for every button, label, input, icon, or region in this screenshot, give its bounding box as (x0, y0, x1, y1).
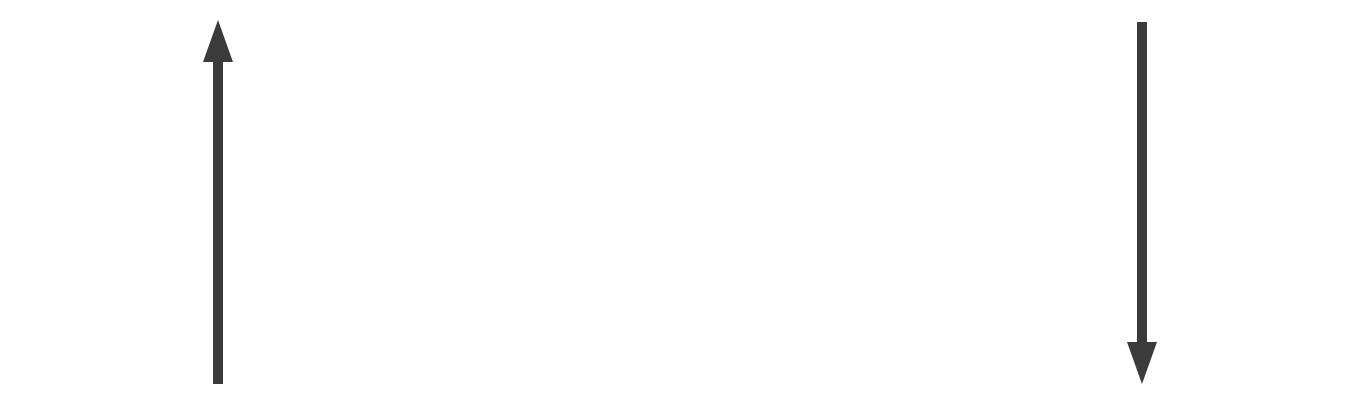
p-value-up-arrow-icon (198, 18, 238, 386)
chart-stage (0, 0, 1348, 420)
p-value-swatch (66, 62, 106, 100)
confidence-swatch (1212, 56, 1252, 94)
plot-area (312, 18, 1009, 384)
confidence-down-arrow-icon (1122, 20, 1162, 386)
